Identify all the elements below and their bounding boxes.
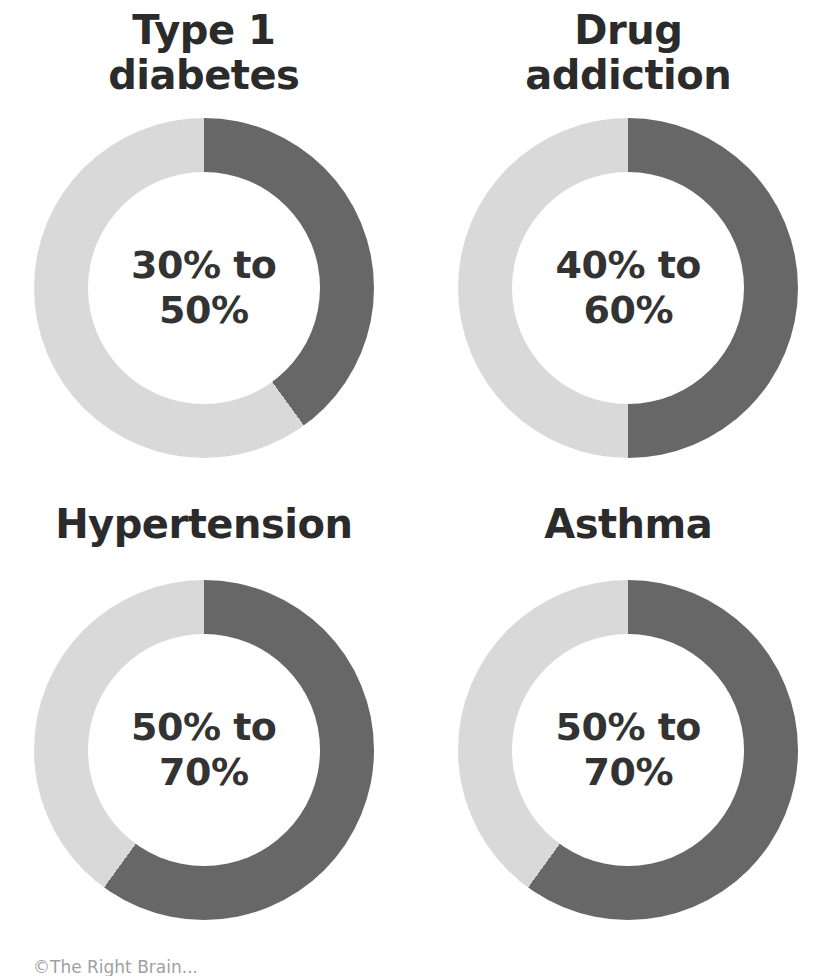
title-line: addiction <box>525 53 731 98</box>
copyright-caption: ©The Right Brain... <box>33 957 198 976</box>
value-line: 50% to <box>131 705 276 750</box>
chart-card-drug-addiction: Drug addiction 40% to 60% <box>408 0 815 478</box>
title-line: Drug <box>525 8 731 53</box>
infographic-page: Type 1 diabetes 30% to 50% Drug addictio… <box>0 0 815 976</box>
center-value-drug-addiction: 40% to 60% <box>556 243 701 333</box>
charts-grid: Type 1 diabetes 30% to 50% Drug addictio… <box>0 0 815 945</box>
title-line: Hypertension <box>55 502 352 547</box>
value-line: 60% <box>556 288 701 333</box>
title-line: Asthma <box>544 502 712 547</box>
donut-hole: 50% to 70% <box>88 634 320 866</box>
chart-card-asthma: Asthma 50% to 70% <box>408 478 815 945</box>
donut-hole: 40% to 60% <box>512 172 744 404</box>
value-line: 50% <box>131 288 276 333</box>
donut-chart-asthma: 50% to 70% <box>458 580 798 920</box>
value-line: 70% <box>131 750 276 795</box>
chart-title-drug-addiction: Drug addiction <box>525 8 731 106</box>
donut-chart-drug-addiction: 40% to 60% <box>458 118 798 458</box>
title-line: diabetes <box>108 53 299 98</box>
center-value-type-1-diabetes: 30% to 50% <box>131 243 276 333</box>
center-value-asthma: 50% to 70% <box>556 705 701 795</box>
chart-title-asthma: Asthma <box>544 502 712 552</box>
donut-chart-type-1-diabetes: 30% to 50% <box>34 118 374 458</box>
donut-hole: 30% to 50% <box>88 172 320 404</box>
value-line: 70% <box>556 750 701 795</box>
value-line: 30% to <box>131 243 276 288</box>
title-line: Type 1 <box>108 8 299 53</box>
chart-title-hypertension: Hypertension <box>55 502 352 552</box>
value-line: 50% to <box>556 705 701 750</box>
chart-card-hypertension: Hypertension 50% to 70% <box>0 478 408 945</box>
chart-card-type-1-diabetes: Type 1 diabetes 30% to 50% <box>0 0 408 478</box>
center-value-hypertension: 50% to 70% <box>131 705 276 795</box>
donut-hole: 50% to 70% <box>512 634 744 866</box>
donut-chart-hypertension: 50% to 70% <box>34 580 374 920</box>
chart-title-type-1-diabetes: Type 1 diabetes <box>108 8 299 106</box>
value-line: 40% to <box>556 243 701 288</box>
